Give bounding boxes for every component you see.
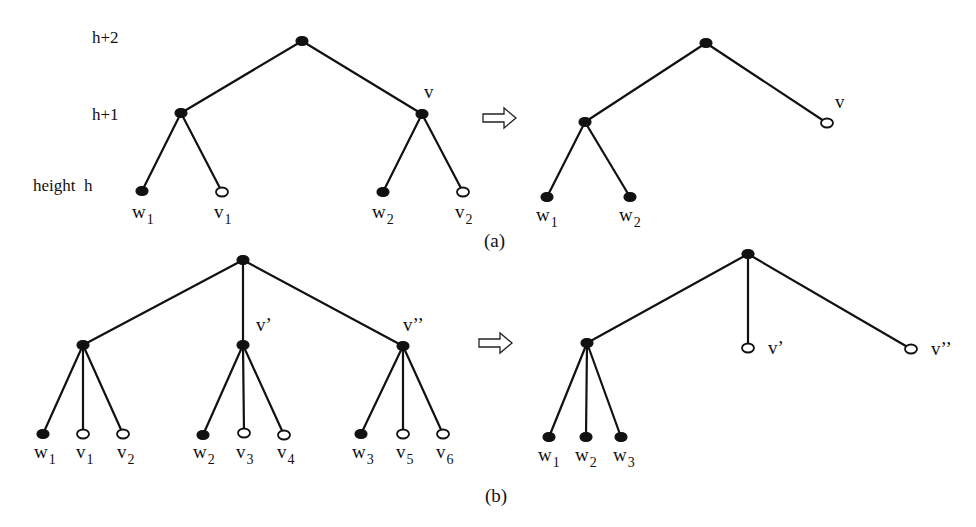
filled-node <box>175 109 187 118</box>
node-label: w2 <box>193 441 215 467</box>
node-label: v’’ <box>931 338 952 359</box>
filled-node <box>136 187 148 196</box>
filled-node <box>377 188 389 197</box>
caption-a: (a) <box>484 230 505 252</box>
tree-edge <box>748 254 911 349</box>
tree-edge <box>547 122 585 197</box>
open-node <box>117 430 129 439</box>
node-label: w1 <box>536 204 558 230</box>
tree-edge <box>83 345 123 434</box>
tree-edge <box>549 343 587 437</box>
node-label: v1 <box>214 201 232 227</box>
node-label: w2 <box>575 444 597 470</box>
tree-edge <box>181 41 302 113</box>
open-node <box>742 344 754 353</box>
filled-node <box>543 433 555 442</box>
filled-node <box>581 339 593 348</box>
filled-node <box>355 430 367 439</box>
open-node <box>457 188 469 197</box>
open-node <box>238 429 250 438</box>
node-label: w3 <box>352 441 374 467</box>
node-label: v2 <box>117 441 135 467</box>
filled-node <box>700 39 712 48</box>
node-label: w2 <box>619 204 641 230</box>
tree-edge <box>587 343 621 437</box>
filled-node <box>742 250 754 259</box>
tree-edge <box>383 114 422 192</box>
filled-node <box>397 342 409 351</box>
filled-node <box>624 193 636 202</box>
node-label: v5 <box>396 441 414 467</box>
level-label: h+2 <box>92 28 119 47</box>
node-label: v2 <box>455 201 473 227</box>
node-label: v’ <box>256 314 272 335</box>
hollow-right-arrow-icon <box>483 108 516 128</box>
edges-layer <box>43 41 911 437</box>
filled-node <box>579 118 591 127</box>
tree-edge <box>83 260 243 345</box>
tree-edge <box>585 43 706 122</box>
filled-node <box>541 193 553 202</box>
node-label: v4 <box>277 441 295 467</box>
open-node <box>397 430 409 439</box>
tree-edge <box>586 343 587 437</box>
tree-edge <box>181 113 222 192</box>
filled-node <box>580 433 592 442</box>
level-label: h+1 <box>92 105 119 124</box>
filled-node <box>237 256 249 265</box>
tree-edge <box>203 345 243 435</box>
node-label: v <box>424 81 434 102</box>
filled-node <box>37 430 49 439</box>
tree-edge <box>302 41 422 114</box>
filled-node <box>197 431 209 440</box>
open-node <box>77 430 89 439</box>
node-label: v <box>835 91 845 112</box>
open-node <box>216 188 228 197</box>
filled-node <box>77 341 89 350</box>
open-node <box>437 430 449 439</box>
node-label: v1 <box>76 441 94 467</box>
tree-edge <box>361 346 403 434</box>
node-label: w1 <box>538 444 560 470</box>
node-label: v3 <box>236 441 254 467</box>
level-label: height h <box>33 176 93 195</box>
tree-edge <box>142 113 181 191</box>
node-label: w1 <box>132 201 154 227</box>
node-label: v’ <box>768 337 784 358</box>
diagram-canvas: h+2h+1height hvw1v1w2v2vw1w2v’v’’w1v1v2w… <box>0 0 976 527</box>
open-node <box>905 345 917 354</box>
tree-transformation-figure: h+2h+1height hvw1v1w2v2vw1w2v’v’’w1v1v2w… <box>0 0 976 527</box>
node-label: w2 <box>372 201 394 227</box>
filled-node <box>615 433 627 442</box>
tree-edge <box>587 254 748 343</box>
node-label: v’’ <box>403 314 424 335</box>
caption-b: (b) <box>485 485 507 507</box>
node-label: w1 <box>34 441 56 467</box>
tree-edge <box>403 346 443 434</box>
filled-node <box>416 110 428 119</box>
tree-edge <box>422 114 463 192</box>
node-label: v6 <box>436 441 454 467</box>
tree-edge <box>585 122 630 197</box>
tree-edge <box>243 345 284 435</box>
open-node <box>278 431 290 440</box>
open-node <box>821 119 833 128</box>
filled-node <box>296 37 308 46</box>
hollow-right-arrow-icon <box>479 333 512 353</box>
tree-edge <box>706 43 827 123</box>
nodes-layer <box>37 37 917 442</box>
tree-edge <box>243 345 244 433</box>
node-label: w3 <box>613 444 635 470</box>
tree-edge <box>43 345 83 434</box>
filled-node <box>237 341 249 350</box>
